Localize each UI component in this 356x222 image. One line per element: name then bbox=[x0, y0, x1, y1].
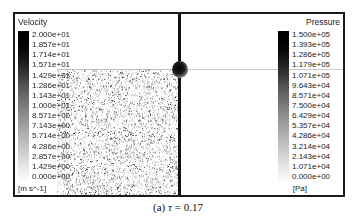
tick-label: 5.714e+00 bbox=[32, 132, 70, 140]
tick-label: 5.357e+04 bbox=[292, 122, 330, 130]
tick-label: 1.000e+01 bbox=[32, 102, 70, 110]
pressure-tick-list: 1.500e+051.393e+051.286e+051.179e+051.07… bbox=[292, 31, 330, 181]
obstacle-marker bbox=[172, 61, 188, 78]
figure-frame: Velocity 2.000e+011.857e+011.714e+011.57… bbox=[13, 12, 345, 197]
caption-value: 0.17 bbox=[184, 201, 203, 213]
caption-symbol: τ bbox=[168, 201, 172, 213]
pressure-legend-body: 1.500e+051.393e+051.286e+051.179e+051.07… bbox=[278, 31, 340, 181]
tick-label: 1.071e+04 bbox=[292, 163, 330, 171]
tick-label: 2.143e+04 bbox=[292, 153, 330, 161]
tick-label: 2.857e+00 bbox=[32, 153, 70, 161]
velocity-streamline bbox=[57, 69, 179, 70]
pressure-legend: Pressure 1.500e+051.393e+051.286e+051.17… bbox=[278, 17, 340, 181]
panel-divider bbox=[178, 14, 181, 195]
tick-label: 1.857e+01 bbox=[32, 41, 70, 49]
velocity-colorbar bbox=[18, 31, 29, 181]
tick-label: 1.500e+05 bbox=[292, 31, 330, 39]
tick-label: 1.286e+05 bbox=[292, 51, 330, 59]
pressure-colorbar bbox=[278, 31, 289, 181]
caption-equals: = bbox=[175, 201, 181, 213]
tick-label: 6.429e+04 bbox=[292, 112, 330, 120]
tick-label: 1.393e+05 bbox=[292, 41, 330, 49]
tick-label: 8.571e+04 bbox=[292, 92, 330, 100]
tick-label: 1.429e+00 bbox=[32, 163, 70, 171]
tick-label: 0.000e+00 bbox=[292, 173, 330, 181]
pressure-panel: Pressure 1.500e+051.393e+051.286e+051.17… bbox=[182, 14, 343, 195]
velocity-units-label: [m s^-1] bbox=[18, 184, 46, 193]
tick-label: 0.000e+00 bbox=[32, 173, 70, 181]
velocity-legend: Velocity 2.000e+011.857e+011.714e+011.57… bbox=[18, 17, 70, 181]
figure-caption: (a) τ = 0.17 bbox=[0, 201, 356, 213]
tick-label: 1.429e+01 bbox=[32, 72, 70, 80]
velocity-particle-field bbox=[57, 70, 179, 195]
tick-label: 7.500e+04 bbox=[292, 102, 330, 110]
tick-label: 1.571e+01 bbox=[32, 61, 70, 69]
pressure-legend-title: Pressure bbox=[278, 17, 340, 28]
tick-label: 1.286e+01 bbox=[32, 82, 70, 90]
velocity-legend-title: Velocity bbox=[18, 17, 70, 28]
tick-label: 1.179e+05 bbox=[292, 61, 330, 69]
cfd-figure: Velocity 2.000e+011.857e+011.714e+011.57… bbox=[0, 0, 356, 222]
tick-label: 2.000e+01 bbox=[32, 31, 70, 39]
velocity-legend-body: 2.000e+011.857e+011.714e+011.571e+011.42… bbox=[18, 31, 70, 181]
pressure-units-label: [Pa] bbox=[293, 184, 307, 193]
tick-label: 1.143e+01 bbox=[32, 92, 70, 100]
tick-label: 7.143e+00 bbox=[32, 122, 70, 130]
tick-label: 1.071e+05 bbox=[292, 72, 330, 80]
tick-label: 4.286e+04 bbox=[292, 132, 330, 140]
tick-label: 9.643e+04 bbox=[292, 82, 330, 90]
velocity-tick-list: 2.000e+011.857e+011.714e+011.571e+011.42… bbox=[32, 31, 70, 181]
tick-label: 3.214e+04 bbox=[292, 143, 330, 151]
tick-label: 8.571e+00 bbox=[32, 112, 70, 120]
velocity-panel: Velocity 2.000e+011.857e+011.714e+011.57… bbox=[15, 14, 179, 195]
tick-label: 4.286e+00 bbox=[32, 143, 70, 151]
tick-label: 1.714e+01 bbox=[32, 51, 70, 59]
caption-label: (a) bbox=[153, 201, 165, 213]
